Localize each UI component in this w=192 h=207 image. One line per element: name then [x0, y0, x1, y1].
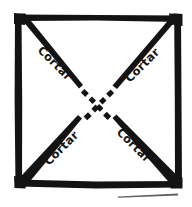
square-edge-left: [15, 14, 23, 187]
square-edge-right: [174, 15, 182, 187]
diagram-canvas: Cortar Cortar Cortar Cortar: [0, 0, 192, 207]
cut-guide-diagram: Cortar Cortar Cortar Cortar: [0, 0, 192, 207]
